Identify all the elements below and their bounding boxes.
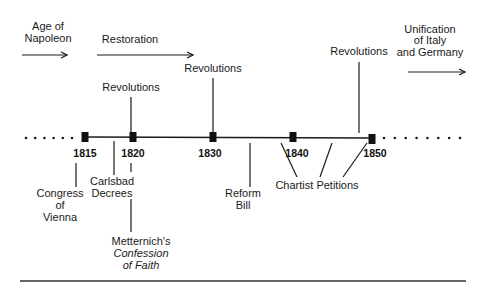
- event-revolutions-1820: Revolutions: [102, 81, 160, 132]
- year-marker-1840: [290, 132, 297, 142]
- year-marker-1815: [82, 132, 89, 142]
- event-label: Congress: [36, 187, 84, 199]
- era-label: and Germany: [397, 46, 464, 58]
- event-label: Metternich's: [112, 235, 171, 247]
- year-label: 1815: [73, 147, 97, 159]
- era-label: Napoleon: [24, 32, 71, 44]
- dotted-continuation-left: [34, 137, 37, 140]
- event-reform-bill: ReformBill: [225, 143, 261, 211]
- event-label: Decrees: [92, 187, 133, 199]
- event-label: Revolutions: [330, 45, 388, 57]
- dotted-continuation-right: [404, 137, 407, 140]
- event-connector: [343, 143, 367, 177]
- timeline-canvas: Age ofNapoleonRestorationUnificationof I…: [0, 0, 490, 286]
- dotted-continuation-right: [448, 137, 451, 140]
- event-revolutions-1830: Revolutions: [184, 62, 242, 132]
- event-label: Confession: [113, 247, 168, 259]
- year-marker-1820: [130, 132, 137, 142]
- era-age-of-napoleon: Age ofNapoleon: [22, 20, 72, 55]
- year-marker-1830: [210, 132, 217, 142]
- event-label: Reform: [225, 187, 261, 199]
- year-label: 1830: [198, 147, 222, 159]
- dotted-continuation-left: [52, 137, 55, 140]
- event-label: of: [55, 199, 65, 211]
- dotted-continuation-left: [71, 137, 74, 140]
- dotted-continuation-right: [415, 137, 418, 140]
- dotted-continuation-right: [383, 137, 386, 140]
- dotted-continuation-right: [437, 137, 440, 140]
- era-label: Restoration: [102, 33, 158, 45]
- timeline-axis: 18151820183018401850: [25, 132, 462, 159]
- events-above-timeline: RevolutionsRevolutionsRevolutions: [102, 45, 388, 133]
- dotted-continuation-right: [426, 137, 429, 140]
- era-unification: Unificationof Italyand Germany: [397, 23, 465, 72]
- era-label: Age of: [32, 20, 65, 32]
- event-label: Bill: [236, 199, 251, 211]
- era-labels: Age ofNapoleonRestorationUnificationof I…: [22, 20, 465, 72]
- event-label: Vienna: [43, 211, 78, 223]
- year-label: 1820: [121, 147, 145, 159]
- era-restoration: Restoration: [97, 33, 193, 55]
- event-label: Chartist Petitions: [275, 179, 359, 191]
- event-connector: [320, 143, 332, 177]
- dotted-continuation-right: [394, 137, 397, 140]
- timeline-diagram: Age ofNapoleonRestorationUnificationof I…: [0, 0, 490, 286]
- timeline-line: [85, 137, 372, 138]
- year-label: 1850: [363, 147, 387, 159]
- event-label: Revolutions: [184, 62, 242, 74]
- event-label: of Faith: [123, 259, 160, 271]
- events-below-timeline: CongressofViennaCarlsbadDecreesReformBil…: [36, 141, 367, 271]
- year-label: 1840: [285, 147, 309, 159]
- event-label: Revolutions: [102, 81, 160, 93]
- dotted-continuation-left: [25, 137, 28, 140]
- event-label: Carlsbad: [90, 175, 134, 187]
- dotted-continuation-left: [43, 137, 46, 140]
- era-label: of Italy: [414, 34, 447, 46]
- dotted-continuation-right: [459, 137, 462, 140]
- year-marker-1850: [369, 134, 376, 144]
- event-congress-of-vienna: CongressofVienna: [36, 163, 84, 223]
- dotted-continuation-left: [62, 137, 65, 140]
- event-revolutions-1848: Revolutions: [330, 45, 388, 133]
